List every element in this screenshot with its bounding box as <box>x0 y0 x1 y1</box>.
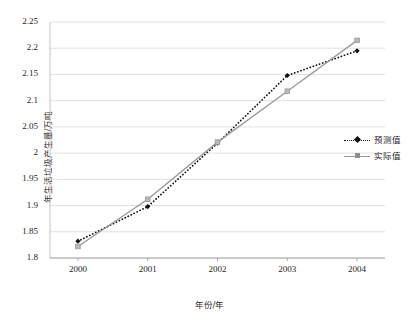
legend-label: 实际值 <box>374 151 401 161</box>
data-point-marker <box>355 38 360 43</box>
chart-container: 年生活垃圾产生量/万吨 年份/年 1.81.851.91.9522.052.12… <box>0 0 419 314</box>
legend-item[interactable]: 预测值 <box>344 134 401 146</box>
legend-marker-diamond-icon <box>354 136 361 143</box>
legend-key-dotted <box>344 135 370 145</box>
data-series-layer <box>75 38 359 249</box>
data-point-marker <box>145 204 150 209</box>
series-line-预测值 <box>78 51 357 241</box>
legend-marker-square-icon <box>355 153 360 158</box>
data-point-marker <box>145 197 150 202</box>
data-point-marker <box>75 239 80 244</box>
legend-label: 预测值 <box>374 135 401 145</box>
data-point-marker <box>215 140 220 145</box>
data-point-marker <box>354 48 359 53</box>
chart-legend: 预测值实际值 <box>344 134 401 162</box>
legend-item[interactable]: 实际值 <box>344 150 401 162</box>
data-point-marker <box>76 244 81 249</box>
legend-key-solid <box>344 151 370 161</box>
data-point-marker <box>285 89 290 94</box>
